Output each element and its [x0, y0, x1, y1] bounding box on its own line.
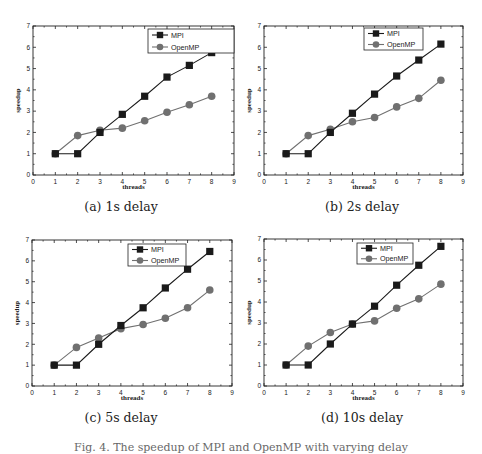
y-tick-label: 2 [257, 340, 261, 347]
x-tick-label: 9 [461, 389, 465, 396]
y-tick-label: 0 [257, 382, 261, 389]
y-tick-label: 1 [257, 361, 261, 368]
openmp-data-point [415, 295, 423, 303]
y-tick-label: 6 [257, 256, 261, 263]
mpi-data-point [305, 361, 312, 368]
mpi-data-point [349, 320, 356, 327]
x-tick-label: 7 [417, 389, 421, 396]
openmp-data-point [393, 305, 401, 313]
y-axis-label: speedup [245, 300, 253, 325]
x-tick-label: 3 [329, 389, 333, 396]
legend-square-icon [366, 245, 372, 251]
mpi-data-point [437, 243, 444, 250]
x-tick-label: 6 [395, 389, 399, 396]
legend-label-openmp: OpenMP [380, 254, 409, 263]
openmp-data-point [437, 280, 445, 288]
mpi-data-point [415, 262, 422, 269]
mpi-data-point [327, 340, 334, 347]
openmp-data-point [371, 317, 379, 325]
x-tick-label: 8 [439, 389, 443, 396]
openmp-data-point [327, 329, 335, 337]
y-tick-label: 7 [257, 235, 261, 242]
y-tick-label: 3 [257, 319, 261, 326]
x-axis-label: threads [352, 394, 375, 402]
mpi-data-point [283, 361, 290, 368]
x-tick-label: 2 [306, 389, 310, 396]
figure-caption: Fig. 4. The speedup of MPI and OpenMP wi… [74, 441, 408, 454]
subfigure-caption: (d) 10s delay [321, 410, 403, 425]
openmp-data-point [304, 342, 312, 350]
mpi-data-point [371, 303, 378, 310]
x-tick-label: 0 [262, 389, 266, 396]
x-tick-label: 1 [284, 389, 288, 396]
y-tick-label: 4 [257, 298, 261, 305]
y-tick-label: 5 [257, 277, 261, 284]
mpi-data-point [393, 282, 400, 289]
legend-label-mpi: MPI [380, 244, 393, 253]
legend-circle-icon [366, 255, 373, 262]
